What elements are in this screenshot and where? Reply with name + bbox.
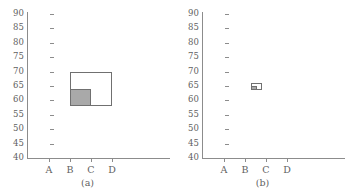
y-tick-label-a-70: 70 xyxy=(13,66,24,77)
y-tick-label-b-90: 90 xyxy=(188,8,199,19)
x-tick-a-B xyxy=(70,158,71,162)
y-tick-label-a-75: 75 xyxy=(13,51,24,62)
y-tick-label-b-70: 70 xyxy=(188,66,199,77)
y-tick-label-b-65: 65 xyxy=(188,80,199,91)
panel-caption-b: (b) xyxy=(175,177,350,189)
y-tick-label-b-50: 50 xyxy=(188,123,199,134)
y-tick-label-a-85: 85 xyxy=(13,22,24,33)
plot-area-b: 90 85 80 75 70 65 60 55 50 45 40 A B C D xyxy=(175,0,350,193)
x-tick-a-D xyxy=(112,158,113,162)
x-tick-label-b-B: B xyxy=(235,164,255,176)
inner-box-a xyxy=(70,89,91,106)
x-tick-a-C xyxy=(91,158,92,162)
y-tick-label-b-55: 55 xyxy=(188,109,199,120)
x-tick-b-C xyxy=(266,158,267,162)
x-tick-label-b-A: A xyxy=(214,164,234,176)
figure-two-panel-plot: 90 85 80 75 70 65 60 55 50 45 40 A B C D… xyxy=(0,0,350,193)
x-tick-label-b-C: C xyxy=(256,164,276,176)
panel-caption-a: (a) xyxy=(0,177,175,189)
plot-area-a: 90 85 80 75 70 65 60 55 50 45 40 A B C D xyxy=(0,0,175,193)
y-tick-label-a-65: 65 xyxy=(13,80,24,91)
y-tick-label-b-85: 85 xyxy=(188,22,199,33)
x-tick-label-a-D: D xyxy=(102,164,122,176)
y-tick-label-b-40: 40 xyxy=(188,152,199,163)
y-tick-label-b-45: 45 xyxy=(188,138,199,149)
y-tick-label-b-60: 60 xyxy=(188,94,199,105)
x-tick-label-b-D: D xyxy=(277,164,297,176)
x-tick-b-A xyxy=(224,158,225,162)
y-tick-label-b-75: 75 xyxy=(188,51,199,62)
panel-b: 90 85 80 75 70 65 60 55 50 45 40 A B C D… xyxy=(175,0,350,193)
x-tick-a-A xyxy=(49,158,50,162)
y-tick-label-a-45: 45 xyxy=(13,138,24,149)
panel-a: 90 85 80 75 70 65 60 55 50 45 40 A B C D… xyxy=(0,0,175,193)
y-tick-label-a-80: 80 xyxy=(13,37,24,48)
y-axis-line-b xyxy=(202,12,203,159)
y-axis-line-a xyxy=(27,12,28,159)
y-tick-label-a-40: 40 xyxy=(13,152,24,163)
x-tick-b-B xyxy=(245,158,246,162)
x-tick-label-a-B: B xyxy=(60,164,80,176)
x-tick-label-a-C: C xyxy=(81,164,101,176)
x-tick-label-a-A: A xyxy=(39,164,59,176)
x-tick-b-D xyxy=(287,158,288,162)
y-tick-label-b-80: 80 xyxy=(188,37,199,48)
y-tick-label-a-60: 60 xyxy=(13,94,24,105)
y-tick-label-a-90: 90 xyxy=(13,8,24,19)
y-tick-label-a-50: 50 xyxy=(13,123,24,134)
y-tick-label-a-55: 55 xyxy=(13,109,24,120)
inner-box-b xyxy=(251,86,257,90)
